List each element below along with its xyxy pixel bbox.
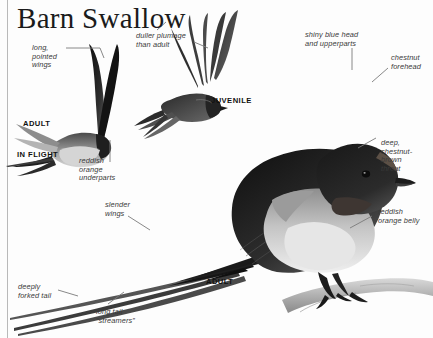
plate-label-adult-in-flight-adult: ADULT bbox=[23, 119, 50, 128]
annotation-long-pointed-wings: long, pointed wings bbox=[32, 44, 72, 70]
annotation-long-tail-streamers: long tail “streamers” bbox=[96, 308, 154, 325]
plate-label-juvenile: JUVENILE bbox=[211, 96, 252, 105]
annotation-reddish-orange-underparts: reddish orange underparts bbox=[79, 157, 129, 183]
annotation-shiny-blue-head: shiny blue head and upperparts bbox=[305, 31, 383, 48]
annotation-slender-wings: slender wings bbox=[105, 201, 147, 218]
annotation-reddish-orange-belly: reddish orange belly bbox=[378, 208, 433, 225]
annotation-chestnut-forehead: chestnut forehead bbox=[391, 54, 433, 71]
plate-label-adult-perched: ADULT bbox=[206, 277, 233, 286]
plate-label-in-flight: IN FLIGHT bbox=[17, 150, 58, 159]
annotation-deep-chestnut-brown-throat: deep, chestnut- brown throat bbox=[381, 139, 429, 173]
bird-field-guide-plate: Barn Swallow long, pointed wings duller … bbox=[0, 0, 433, 338]
annotation-deeply-forked-tail: deeply forked tail bbox=[18, 283, 66, 300]
annotation-duller-plumage: duller plumage than adult bbox=[136, 32, 206, 49]
